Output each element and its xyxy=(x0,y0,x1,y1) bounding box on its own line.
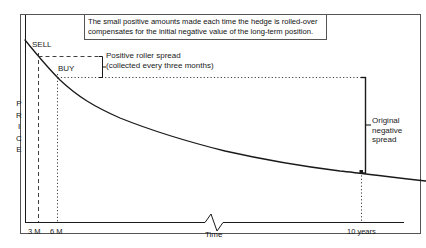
y-axis-letter-r: R xyxy=(13,110,25,122)
callout-note-box: The small positive amounts made each tim… xyxy=(84,14,327,40)
roller-spread-line-2: (collected every three months) xyxy=(106,61,214,71)
x-axis-break-zigzag xyxy=(205,214,223,231)
y-axis-letter-i: I xyxy=(13,121,25,133)
diagram-canvas: The small positive amounts made each tim… xyxy=(0,0,426,248)
x-tick-label-3m: 3 M xyxy=(28,227,41,237)
orig-spread-line-2: negative xyxy=(372,126,402,136)
roller-spread-line-1: Positive roller spread xyxy=(106,51,214,61)
buy-label: BUY xyxy=(58,64,74,74)
x-tick-label-10-years: 10 years xyxy=(347,227,376,237)
original-negative-spread-bracket xyxy=(361,77,371,174)
x-tick-label-6m: 6 M xyxy=(50,227,63,237)
positive-roller-spread-label: Positive roller spread (collected every … xyxy=(106,51,214,70)
original-negative-spread-label: Original negative spread xyxy=(372,116,402,145)
sell-label: SELL xyxy=(32,40,52,50)
x-axis-title: Time xyxy=(205,230,222,240)
orig-spread-line-3: spread xyxy=(372,135,402,145)
figure-border xyxy=(21,15,421,234)
positive-roller-spread-bracket xyxy=(99,57,106,78)
y-axis-letter-c: C xyxy=(13,133,25,145)
y-axis-letter-e: E xyxy=(13,144,25,156)
y-axis-title: P R I C E xyxy=(13,98,25,156)
y-axis-letter-p: P xyxy=(13,98,25,110)
callout-line-1: The small positive amounts made each tim… xyxy=(88,17,323,27)
orig-spread-line-1: Original xyxy=(372,116,402,126)
callout-line-2: compensates for the initial negative val… xyxy=(88,27,323,37)
